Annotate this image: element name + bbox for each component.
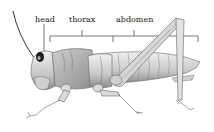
grasshopper-illustration [0,0,214,132]
grasshopper-diagram: head thorax abdomen [0,0,214,132]
mouthparts [34,76,50,89]
label-thorax: thorax [69,16,95,24]
thorax-body [52,49,112,89]
head-body [31,51,55,90]
middle-leg [93,84,143,114]
label-abdomen: abdomen [116,16,153,24]
antenna [13,11,34,58]
label-head: head [35,16,55,24]
